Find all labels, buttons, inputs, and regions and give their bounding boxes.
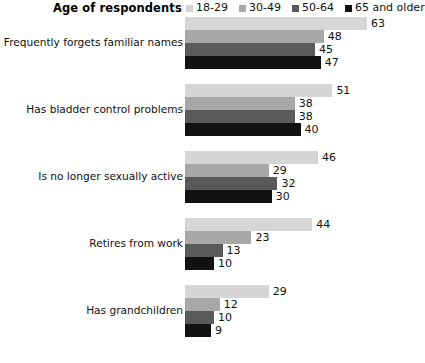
legend-item-label: 50-64	[302, 2, 334, 13]
bar[interactable]	[185, 231, 251, 244]
legend-swatch-icon	[239, 5, 246, 12]
bar-stack: 2912109	[185, 285, 287, 337]
legend-item-0[interactable]: 18-29	[186, 2, 228, 13]
bar-row[interactable]: 45	[185, 43, 385, 56]
bar-value-label: 30	[276, 191, 290, 202]
bar[interactable]	[185, 110, 295, 123]
legend-item-3[interactable]: 65 and older	[345, 2, 425, 13]
legend-item-label: 18-29	[196, 2, 228, 13]
legend-item-label: 30-49	[249, 2, 281, 13]
bar-value-label: 12	[224, 299, 238, 310]
bar-group: Retires from work44231310	[0, 218, 425, 285]
chart-legend: 18-2930-4950-6465 and older	[186, 2, 425, 13]
bar-row[interactable]: 63	[185, 17, 385, 30]
bar-value-label: 48	[328, 31, 342, 42]
category-label: Has grandchildren	[86, 305, 183, 316]
bar-value-label: 10	[218, 258, 232, 269]
plot-area: Frequently forgets familiar names6348454…	[0, 17, 425, 357]
bar[interactable]	[185, 311, 214, 324]
bar[interactable]	[185, 244, 223, 257]
legend-swatch-icon	[345, 5, 352, 12]
legend-item-1[interactable]: 30-49	[239, 2, 281, 13]
category-label: Frequently forgets familiar names	[4, 37, 183, 48]
bar[interactable]	[185, 177, 277, 190]
bar-row[interactable]: 51	[185, 84, 350, 97]
bar[interactable]	[185, 298, 220, 311]
bar-value-label: 9	[215, 325, 222, 336]
bar-value-label: 23	[255, 232, 269, 243]
bar-value-label: 46	[322, 152, 336, 163]
bar[interactable]	[185, 164, 269, 177]
bar-row[interactable]: 48	[185, 30, 385, 43]
bar-row[interactable]: 30	[185, 190, 336, 203]
category-label: Has bladder control problems	[26, 104, 183, 115]
bar[interactable]	[185, 43, 315, 56]
bar[interactable]	[185, 84, 332, 97]
bar-value-label: 29	[273, 165, 287, 176]
bar[interactable]	[185, 123, 301, 136]
bar[interactable]	[185, 324, 211, 337]
bar-row[interactable]: 29	[185, 164, 336, 177]
bar-value-label: 44	[316, 219, 330, 230]
bar-row[interactable]: 29	[185, 285, 287, 298]
category-label: Retires from work	[89, 238, 183, 249]
bar[interactable]	[185, 257, 214, 270]
bar-group: Frequently forgets familiar names6348454…	[0, 17, 425, 84]
bar-value-label: 32	[281, 178, 295, 189]
bar-stack: 51383840	[185, 84, 350, 136]
bar-row[interactable]: 47	[185, 56, 385, 69]
bar-value-label: 40	[305, 124, 319, 135]
bar[interactable]	[185, 285, 269, 298]
legend-swatch-icon	[292, 5, 299, 12]
source-note	[3, 356, 423, 363]
bar-value-label: 38	[299, 98, 313, 109]
bar-chart: Age of respondents 18-2930-4950-6465 and…	[0, 0, 425, 363]
legend-item-label: 65 and older	[355, 2, 425, 13]
bar-value-label: 38	[299, 111, 313, 122]
category-label: Is no longer sexually active	[38, 171, 183, 182]
bar-row[interactable]: 40	[185, 123, 350, 136]
bar[interactable]	[185, 218, 312, 231]
bar-value-label: 29	[273, 286, 287, 297]
bar-row[interactable]: 23	[185, 231, 330, 244]
bar-row[interactable]: 44	[185, 218, 330, 231]
bar-value-label: 45	[319, 44, 333, 55]
bar-row[interactable]: 38	[185, 97, 350, 110]
bar-value-label: 13	[227, 245, 241, 256]
bar-stack: 63484547	[185, 17, 385, 69]
bar-group: Has grandchildren2912109	[0, 285, 425, 352]
bar-row[interactable]: 38	[185, 110, 350, 123]
bar-group: Has bladder control problems51383840	[0, 84, 425, 151]
bar-value-label: 10	[218, 312, 232, 323]
bar-row[interactable]: 10	[185, 257, 330, 270]
bar-row[interactable]: 10	[185, 311, 287, 324]
bar-row[interactable]: 13	[185, 244, 330, 257]
bar-value-label: 51	[336, 85, 350, 96]
legend-item-2[interactable]: 50-64	[292, 2, 334, 13]
bar-stack: 44231310	[185, 218, 330, 270]
bar[interactable]	[185, 30, 324, 43]
bar[interactable]	[185, 151, 318, 164]
bar-row[interactable]: 12	[185, 298, 287, 311]
bar[interactable]	[185, 190, 272, 203]
chart-header: Age of respondents 18-2930-4950-6465 and…	[0, 0, 425, 17]
bar-value-label: 47	[325, 57, 339, 68]
bar-row[interactable]: 9	[185, 324, 287, 337]
legend-swatch-icon	[186, 5, 193, 12]
bar-row[interactable]: 46	[185, 151, 336, 164]
bar[interactable]	[185, 56, 321, 69]
bar-stack: 46293230	[185, 151, 336, 203]
page-title: Age of respondents	[53, 1, 182, 15]
bar-row[interactable]: 32	[185, 177, 336, 190]
bar[interactable]	[185, 97, 295, 110]
bar[interactable]	[185, 17, 367, 30]
bar-group: Is no longer sexually active46293230	[0, 151, 425, 218]
bar-value-label: 63	[371, 18, 385, 29]
